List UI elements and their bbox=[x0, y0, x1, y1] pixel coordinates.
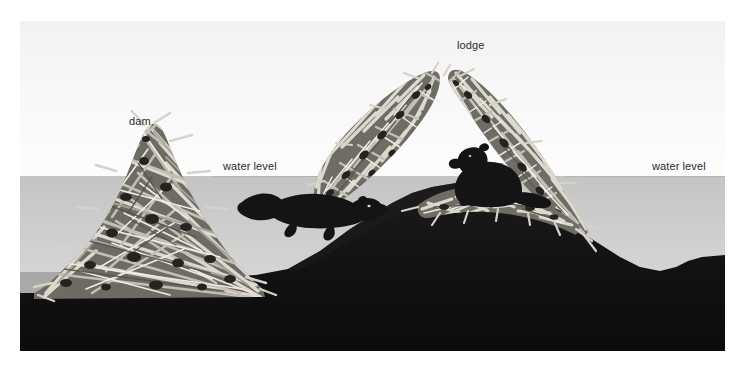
label-water-level-left: water level bbox=[223, 160, 277, 172]
label-lodge: lodge bbox=[457, 39, 484, 51]
label-dam: dam bbox=[129, 115, 151, 127]
label-water-level-right: water level bbox=[652, 160, 706, 172]
beaver-sitting-icon bbox=[449, 143, 551, 208]
beaver-sitting-eye bbox=[469, 155, 472, 157]
beaver-habitat-figure: dam lodge water level water level bbox=[0, 0, 744, 365]
beaver-swimming-icon bbox=[237, 194, 388, 241]
beaver-swimming-eye bbox=[367, 205, 370, 207]
beavers-layer bbox=[20, 21, 725, 351]
illustration-plate: dam lodge water level water level bbox=[20, 21, 725, 351]
